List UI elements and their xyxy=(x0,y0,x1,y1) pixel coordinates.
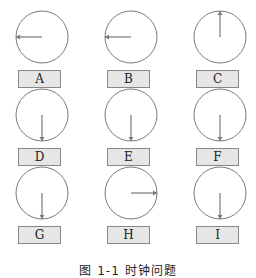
clock-b: B xyxy=(95,10,165,96)
clock-e: E xyxy=(95,88,165,174)
clock-label: E xyxy=(107,148,150,166)
clock-face-icon xyxy=(104,166,158,220)
clock-face-icon xyxy=(104,10,158,64)
clock-label: F xyxy=(196,148,239,166)
clock-d: D xyxy=(6,88,76,174)
clock-label: I xyxy=(196,226,239,244)
clock-label: D xyxy=(18,148,61,166)
clock-face-icon xyxy=(15,166,69,220)
clock-label: G xyxy=(18,226,61,244)
clock-label: B xyxy=(107,70,150,88)
clock-label: A xyxy=(18,70,61,88)
clock-face-icon xyxy=(15,10,69,64)
clock-a: A xyxy=(6,10,76,96)
clock-face-icon xyxy=(104,88,158,142)
clock-g: G xyxy=(6,166,76,252)
clock-f: F xyxy=(184,88,254,174)
clock-label: H xyxy=(107,226,150,244)
clock-face-icon xyxy=(193,88,247,142)
clock-i: I xyxy=(184,166,254,252)
clock-face-icon xyxy=(193,166,247,220)
figure-caption: 图 1-1 时钟问题 xyxy=(0,261,256,278)
clock-c: C xyxy=(184,10,254,96)
clock-face-icon xyxy=(193,10,247,64)
clock-h: H xyxy=(95,166,165,252)
clock-face-icon xyxy=(15,88,69,142)
clock-label: C xyxy=(196,70,239,88)
